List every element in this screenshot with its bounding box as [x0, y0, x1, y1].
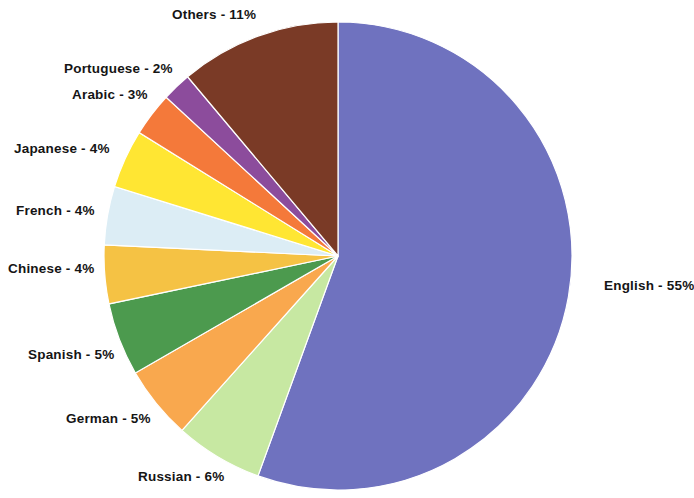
- pie-label-french: French - 4%: [16, 204, 95, 218]
- pie-label-japanese: Japanese - 4%: [14, 142, 110, 156]
- pie-label-spanish: Spanish - 5%: [28, 348, 114, 362]
- pie-label-german: German - 5%: [66, 412, 151, 426]
- pie-label-others: Others - 11%: [172, 8, 256, 22]
- pie-label-portuguese: Portuguese - 2%: [64, 62, 173, 76]
- pie-label-english: English - 55%: [604, 279, 694, 293]
- pie-label-chinese: Chinese - 4%: [8, 262, 94, 276]
- pie-label-russian: Russian - 6%: [138, 470, 224, 484]
- pie-slice-group: [104, 22, 572, 490]
- pie-label-arabic: Arabic - 3%: [72, 88, 148, 102]
